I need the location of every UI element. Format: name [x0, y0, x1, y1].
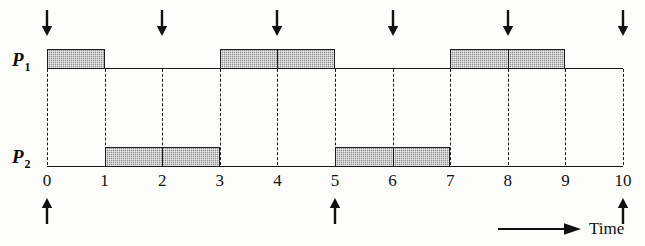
- up-arrow-t5: [329, 198, 342, 224]
- bar-divider-t2: [162, 147, 163, 167]
- down-arrow-t10: [617, 10, 630, 36]
- tick-label-9: 9: [561, 172, 570, 189]
- execution-bar-p1-0-1: [47, 49, 105, 69]
- guide-line-t0: [47, 69, 48, 165]
- bar-divider-t6: [393, 147, 394, 167]
- tick-label-5: 5: [331, 172, 340, 189]
- tick-label-0: 0: [43, 172, 52, 189]
- tick-label-10: 10: [615, 172, 632, 189]
- time-axis-label: Time: [589, 220, 624, 237]
- tick-label-8: 8: [504, 172, 513, 189]
- down-arrow-t6: [386, 10, 399, 36]
- process-label-p1: P1: [12, 50, 31, 73]
- process-label-p1-subscript: 1: [25, 60, 31, 74]
- tick-label-4: 4: [273, 172, 282, 189]
- process-label-p2-text: P: [12, 146, 24, 167]
- bar-divider-t8: [508, 49, 509, 69]
- up-arrow-t0: [41, 198, 54, 224]
- guide-line-t8: [508, 69, 509, 165]
- timing-diagram: P1 P2 012345678910 Time: [0, 0, 645, 246]
- guide-line-t4: [277, 69, 278, 165]
- process-label-p1-text: P: [12, 49, 24, 70]
- down-arrow-t4: [271, 10, 284, 36]
- bar-divider-t4: [277, 49, 278, 69]
- process-label-p2: P2: [12, 147, 31, 170]
- tick-label-1: 1: [100, 172, 109, 189]
- down-arrow-t2: [156, 10, 169, 36]
- down-arrow-t8: [501, 10, 514, 36]
- guide-line-t3: [220, 69, 221, 165]
- down-arrow-t0: [41, 10, 54, 36]
- tick-label-6: 6: [388, 172, 397, 189]
- tick-label-7: 7: [446, 172, 455, 189]
- time-direction-arrow: [498, 222, 582, 240]
- guide-line-t10: [623, 69, 624, 165]
- process-label-p2-subscript: 2: [25, 157, 31, 171]
- tick-label-3: 3: [216, 172, 225, 189]
- guide-line-t7: [450, 69, 451, 165]
- guide-line-t9: [565, 69, 566, 165]
- tick-label-2: 2: [158, 172, 167, 189]
